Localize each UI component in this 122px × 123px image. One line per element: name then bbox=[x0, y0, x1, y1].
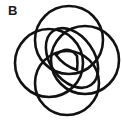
inner-lens bbox=[56, 50, 78, 70]
rose-diagram bbox=[0, 0, 122, 123]
